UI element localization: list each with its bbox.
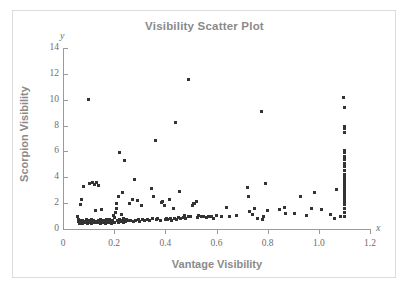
data-point — [278, 208, 281, 211]
y-tick-label: 4 — [37, 171, 59, 181]
data-point — [97, 184, 100, 187]
data-point — [117, 195, 120, 198]
data-point — [115, 207, 118, 210]
data-point — [262, 215, 265, 218]
y-tick-label: 14 — [37, 42, 59, 52]
data-point — [195, 200, 198, 203]
data-point — [260, 110, 263, 113]
y-tick-label: 8 — [37, 120, 59, 130]
data-point — [87, 98, 90, 101]
data-point — [159, 219, 162, 222]
y-tick-label: 10 — [37, 94, 59, 104]
data-point — [215, 214, 218, 217]
data-point — [100, 208, 103, 211]
y-axis-title: Scorpion Visibility — [18, 54, 30, 214]
data-point — [152, 195, 155, 198]
scatter-plot-figure: Visibility Scatter Plot y x 02468101214 … — [0, 0, 409, 293]
data-point — [343, 165, 346, 168]
y-axis-variable-symbol: y — [60, 30, 64, 41]
data-point — [212, 217, 215, 220]
y-tick-label: 0 — [37, 223, 59, 233]
x-tick-mark — [114, 229, 115, 234]
data-point — [335, 188, 338, 191]
data-point — [313, 191, 316, 194]
x-tick-label: 0.2 — [97, 238, 131, 248]
x-axis-title: Vantage Visibility — [63, 258, 371, 270]
x-tick-label: 0.4 — [148, 238, 182, 248]
y-tick-label: 6 — [37, 145, 59, 155]
y-tick-mark — [63, 203, 68, 204]
data-point — [343, 131, 346, 134]
data-point — [247, 195, 250, 198]
data-point — [120, 213, 123, 216]
data-point — [293, 212, 296, 215]
x-tick-label: 0 — [46, 238, 80, 248]
data-point — [261, 218, 264, 221]
data-point — [133, 178, 136, 181]
data-point — [343, 207, 346, 210]
data-point — [264, 182, 267, 185]
x-axis-variable-symbol: x — [376, 222, 380, 233]
data-point — [283, 206, 286, 209]
data-point — [251, 213, 254, 216]
x-tick-mark — [165, 229, 166, 234]
x-tick-mark — [319, 229, 320, 234]
data-point — [114, 211, 117, 214]
data-point — [246, 186, 249, 189]
x-tick-mark — [217, 229, 218, 234]
data-point — [228, 215, 231, 218]
data-point — [342, 96, 345, 99]
data-point — [79, 203, 82, 206]
data-point — [333, 217, 336, 220]
data-point — [187, 78, 190, 81]
data-point — [225, 206, 228, 209]
data-point — [150, 187, 153, 190]
x-tick-mark — [370, 229, 371, 234]
data-point — [118, 151, 121, 154]
data-point — [235, 214, 238, 217]
y-tick-mark — [63, 177, 68, 178]
data-point — [161, 200, 164, 203]
data-point — [284, 212, 287, 215]
data-point — [123, 159, 126, 162]
data-point — [339, 215, 342, 218]
data-point — [329, 213, 332, 216]
x-tick-label: 0.6 — [200, 238, 234, 248]
y-tick-label: 12 — [37, 68, 59, 78]
data-point — [80, 198, 83, 201]
data-point — [140, 204, 143, 207]
data-point — [343, 215, 346, 218]
data-point — [174, 121, 177, 124]
x-tick-label: 0.8 — [251, 238, 285, 248]
y-tick-mark — [63, 48, 68, 49]
data-point — [343, 162, 346, 165]
data-point — [310, 207, 313, 210]
data-point — [266, 209, 269, 212]
data-point — [168, 198, 171, 201]
data-point — [172, 207, 175, 210]
data-point — [299, 195, 302, 198]
data-point — [343, 151, 346, 154]
y-tick-mark — [63, 151, 68, 152]
data-point — [178, 190, 181, 193]
y-tick-mark — [63, 100, 68, 101]
data-point — [115, 202, 118, 205]
data-point — [253, 207, 256, 210]
data-point — [189, 215, 192, 218]
y-tick-mark — [63, 229, 68, 230]
data-point — [320, 208, 323, 211]
data-point — [82, 185, 85, 188]
x-tick-label: 1.0 — [302, 238, 336, 248]
data-point — [131, 198, 134, 201]
y-tick-mark — [63, 74, 68, 75]
y-tick-label: 2 — [37, 197, 59, 207]
data-point — [256, 217, 259, 220]
data-point — [220, 215, 223, 218]
data-point — [94, 209, 97, 212]
x-tick-label: 1.2 — [353, 238, 387, 248]
data-point — [343, 106, 346, 109]
y-tick-mark — [63, 126, 68, 127]
data-point — [343, 203, 346, 206]
plot-canvas: y x 02468101214 00.20.40.60.81.01.2 Scor… — [0, 0, 409, 293]
data-point — [163, 204, 166, 207]
